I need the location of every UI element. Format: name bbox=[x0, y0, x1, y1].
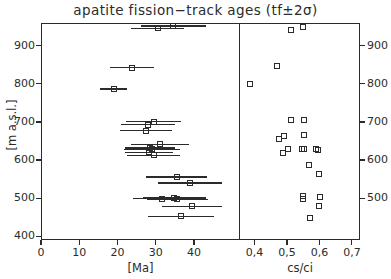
chart-title: apatite fission−track ages (tf±2σ) bbox=[0, 2, 391, 18]
data-point-age bbox=[145, 122, 151, 128]
y-tick-left bbox=[36, 159, 41, 160]
x-tick-ratio bbox=[286, 240, 287, 245]
y-tick-label-left: 900 bbox=[1, 39, 35, 52]
y-tick-right bbox=[360, 45, 365, 46]
y-tick-right bbox=[360, 159, 365, 160]
x-tick-label-ratio: 0,5 bbox=[271, 246, 303, 259]
data-point-age bbox=[189, 203, 195, 209]
x-tick-label-age: 20 bbox=[102, 246, 134, 259]
chart-figure: apatite fission−track ages (tf±2σ) [m a.… bbox=[0, 0, 391, 279]
y-tick-left bbox=[36, 45, 41, 46]
data-point-age bbox=[170, 23, 176, 29]
data-point-ratio bbox=[285, 146, 291, 152]
data-point-age bbox=[174, 174, 180, 180]
y-tick-left bbox=[36, 198, 41, 199]
data-point-age bbox=[129, 65, 135, 71]
x-tick-age bbox=[79, 240, 80, 245]
y-tick-label-right: 600 bbox=[367, 153, 391, 166]
data-point-ratio bbox=[247, 81, 253, 87]
x-tick-label-ratio: 0,4 bbox=[239, 246, 271, 259]
data-point-age bbox=[151, 152, 157, 158]
x-tick-age bbox=[193, 240, 194, 245]
y-tick-left bbox=[36, 121, 41, 122]
data-point-ratio bbox=[288, 27, 294, 33]
data-point-ratio bbox=[280, 150, 286, 156]
y-tick-label-right: 700 bbox=[367, 115, 391, 128]
y-tick-label-left: 700 bbox=[1, 115, 35, 128]
y-tick-label-right: 900 bbox=[367, 39, 391, 52]
data-point-ratio bbox=[301, 117, 307, 123]
x-tick-ratio bbox=[351, 240, 352, 245]
y-tick-right bbox=[360, 121, 365, 122]
data-point-age bbox=[174, 196, 180, 202]
x-tick-label-age: 40 bbox=[178, 246, 210, 259]
data-point-age bbox=[111, 86, 117, 92]
x-tick-label-ratio: 0,7 bbox=[336, 246, 368, 259]
data-point-ratio bbox=[316, 203, 322, 209]
data-point-age bbox=[143, 128, 149, 134]
data-point-ratio bbox=[281, 133, 287, 139]
y-tick-label-left: 800 bbox=[1, 77, 35, 90]
x-tick-ratio bbox=[319, 240, 320, 245]
data-point-ratio bbox=[274, 63, 280, 69]
data-point-ratio bbox=[300, 24, 306, 30]
data-point-ratio bbox=[301, 146, 307, 152]
x-tick-label-ratio: 0,6 bbox=[303, 246, 335, 259]
data-point-ratio bbox=[316, 171, 322, 177]
x-tick-label-age: 30 bbox=[140, 246, 172, 259]
x-tick-age bbox=[117, 240, 118, 245]
y-tick-label-right: 800 bbox=[367, 77, 391, 90]
x-tick-age bbox=[40, 240, 41, 245]
y-tick-label-left: 600 bbox=[1, 153, 35, 166]
data-point-ratio bbox=[288, 117, 294, 123]
x-tick-age bbox=[155, 240, 156, 245]
age-panel-frame bbox=[41, 23, 240, 240]
x-tick-ratio bbox=[254, 240, 255, 245]
data-point-ratio bbox=[317, 194, 323, 200]
y-tick-right bbox=[360, 198, 365, 199]
data-point-age bbox=[178, 213, 184, 219]
data-point-ratio bbox=[301, 132, 307, 138]
y-tick-label-left: 400 bbox=[1, 229, 35, 242]
x-axis-title-ratio: cs/ci bbox=[276, 261, 324, 275]
x-tick-label-age: 10 bbox=[63, 246, 95, 259]
x-axis-title-age: [Ma] bbox=[121, 261, 161, 275]
y-tick-left bbox=[36, 236, 41, 237]
data-point-ratio bbox=[307, 215, 313, 221]
y-tick-label-right: 500 bbox=[367, 191, 391, 204]
y-tick-label-left: 500 bbox=[1, 191, 35, 204]
data-point-ratio bbox=[300, 196, 306, 202]
data-point-age bbox=[187, 180, 193, 186]
x-tick-label-age: 0 bbox=[25, 246, 57, 259]
data-point-ratio bbox=[315, 147, 321, 153]
data-point-ratio bbox=[306, 162, 312, 168]
y-tick-right bbox=[360, 83, 365, 84]
y-tick-left bbox=[36, 83, 41, 84]
